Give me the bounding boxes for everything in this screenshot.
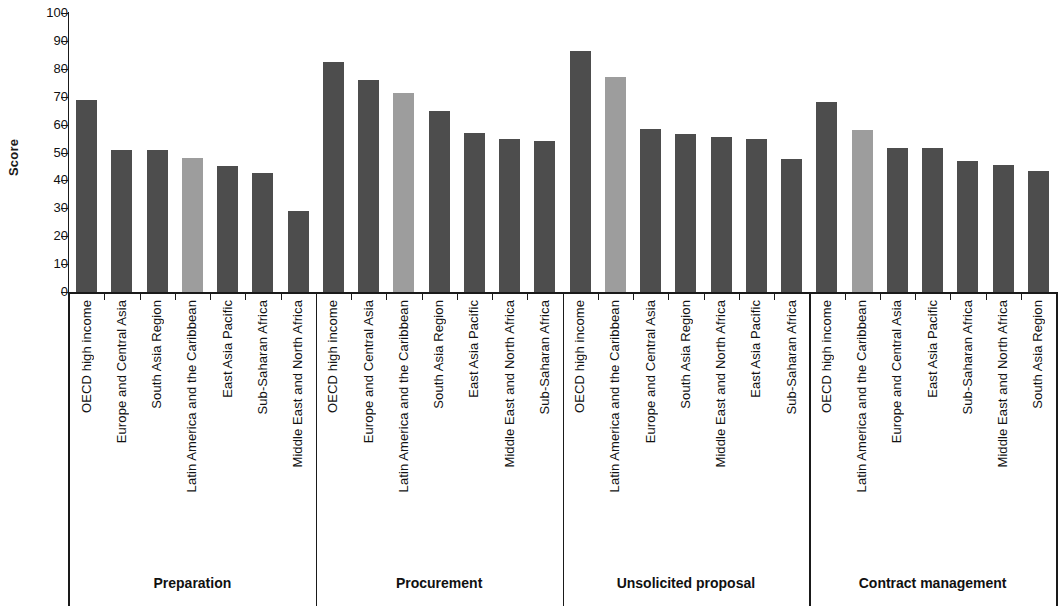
x-axis-category-label: Latin America and the Caribbean [397,300,410,492]
group-separator [563,292,565,606]
y-axis-line [68,12,69,293]
x-axis-tick-mark [1021,292,1022,300]
x-axis-category-label: OECD high income [820,300,833,413]
bar [252,173,273,292]
bar [111,150,132,292]
x-axis-category-label: Europe and Central Asia [890,300,903,443]
bar [499,139,520,292]
x-axis-category-label: OECD high income [573,300,586,413]
x-axis-category-label: Sub-Saharan Africa [538,300,551,415]
x-axis-category-label: South Asia Region [1031,300,1044,409]
x-axis-tick-mark [527,292,528,300]
x-axis-tick-mark [668,292,669,300]
bar [358,80,379,292]
x-axis-tick-mark [281,292,282,300]
x-axis-category-label: Middle East and North Africa [996,300,1009,468]
x-axis-tick-mark [845,292,846,300]
x-axis-tick-mark [950,292,951,300]
x-axis-category-label: OECD high income [326,300,339,413]
x-axis-category-label: Europe and Central Asia [644,300,657,443]
bar [887,148,908,292]
y-axis-tick-mark [61,69,68,70]
x-axis-tick-mark [492,292,493,300]
y-axis-tick-mark [61,41,68,42]
x-axis-category-label: Sub-Saharan Africa [961,300,974,415]
bar [605,77,626,292]
group-title: Preparation [69,575,316,595]
x-axis-category-label: Middle East and North Africa [714,300,727,468]
bar [182,158,203,292]
bar [816,102,837,292]
x-axis-tick-mark [986,292,987,300]
x-axis-category-label: South Asia Region [150,300,163,409]
bar [675,134,696,292]
x-axis-tick-mark [104,292,105,300]
y-axis-tick-mark [61,180,68,181]
bar [217,166,238,292]
x-axis-category-label: East Asia Pacific [749,300,762,398]
bar [957,161,978,292]
x-axis-tick-mark [880,292,881,300]
y-axis-tick-mark [61,208,68,209]
x-axis-category-label: Latin America and the Caribbean [608,300,621,492]
bar [852,130,873,292]
bar [76,100,97,292]
x-axis-tick-mark [457,292,458,300]
x-axis-tick-mark [175,292,176,300]
bar [570,51,591,292]
x-axis-category-label: Latin America and the Caribbean [855,300,868,492]
x-axis-category-label: East Asia Pacific [467,300,480,398]
plot-right-border [1056,292,1058,606]
bar [1028,171,1049,292]
y-axis-tick-mark [61,236,68,237]
x-axis-tick-mark [915,292,916,300]
y-axis-tick-mark [61,125,68,126]
bar [746,139,767,292]
x-axis-category-label: Europe and Central Asia [362,300,375,443]
bar [993,165,1014,292]
group-title: Contract management [809,575,1056,595]
x-axis-category-label: Sub-Saharan Africa [785,300,798,415]
x-axis-tick-mark [386,292,387,300]
x-axis-tick-mark [351,292,352,300]
x-axis-category-label: Middle East and North Africa [291,300,304,468]
x-axis-tick-mark [210,292,211,300]
x-axis-tick-mark [598,292,599,300]
x-axis-tick-mark [774,292,775,300]
bar [429,111,450,292]
bar [534,141,555,292]
x-axis-category-label: South Asia Region [679,300,692,409]
x-axis-category-label: Middle East and North Africa [503,300,516,468]
bar [711,137,732,292]
x-axis-category-label: East Asia Pacific [926,300,939,398]
x-axis-category-label: Sub-Saharan Africa [256,300,269,415]
x-axis-category-label: Latin America and the Caribbean [185,300,198,492]
y-axis-tick-mark [61,13,68,14]
y-axis-tick-mark [61,264,68,265]
y-axis-tick-mark [61,292,68,293]
bar [640,129,661,292]
x-axis-category-label: East Asia Pacific [221,300,234,398]
bar [323,62,344,292]
bar [147,150,168,292]
y-axis-title: Score [2,112,24,202]
group-title: Procurement [316,575,563,595]
bar [288,211,309,292]
bar [922,148,943,292]
plot-left-border [68,292,70,606]
group-separator [316,292,318,606]
bar [393,93,414,292]
y-axis-tick-mark [61,153,68,154]
x-axis-category-label: OECD high income [80,300,93,413]
x-axis-tick-mark [422,292,423,300]
group-title: Unsolicited proposal [563,575,810,595]
x-axis-tick-mark [245,292,246,300]
x-axis-tick-mark [140,292,141,300]
bar-chart: Score 1009080706050403020100 OECD high i… [0,0,1060,606]
bar [464,133,485,292]
y-axis-tick-mark [61,97,68,98]
x-axis-category-label: South Asia Region [432,300,445,409]
x-axis-tick-mark [633,292,634,300]
x-axis-tick-mark [704,292,705,300]
group-separator [809,292,811,606]
